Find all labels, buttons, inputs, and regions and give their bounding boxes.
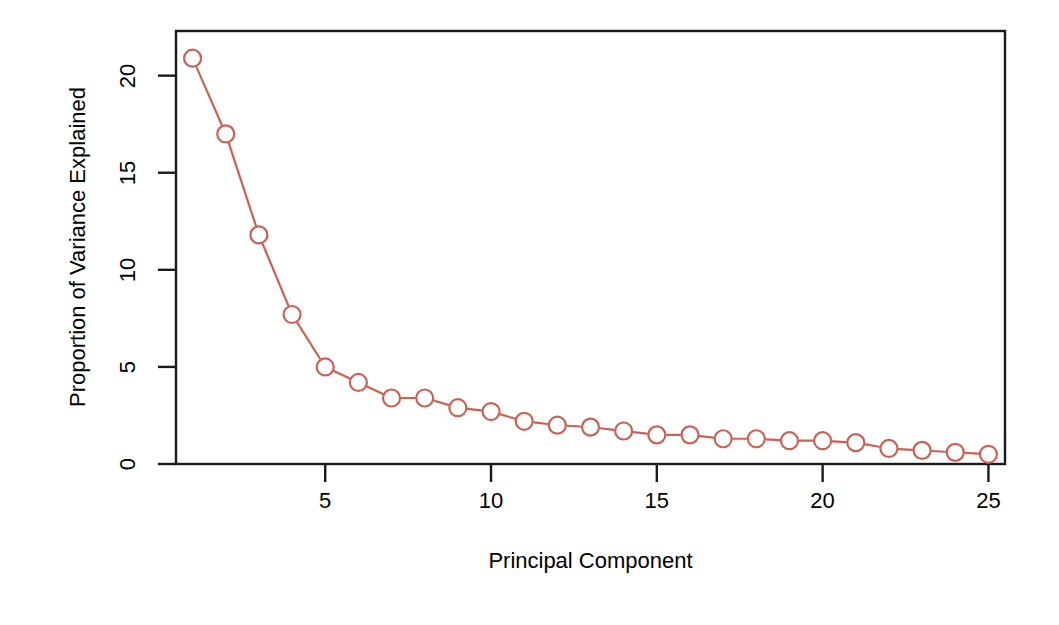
scree-plot-figure: Proportion of Variance Explained Princip… <box>0 0 1059 625</box>
x-tick-label: 10 <box>479 488 503 514</box>
x-tick-label: 20 <box>810 488 834 514</box>
plot-canvas <box>0 0 1059 625</box>
x-axis-ticks <box>325 464 988 482</box>
y-tick-label: 20 <box>115 54 141 98</box>
variance-line <box>197 67 979 453</box>
y-axis-ticks <box>158 76 176 464</box>
axis-frame <box>176 31 1005 464</box>
y-tick-label: 10 <box>115 248 141 292</box>
variance-markers <box>184 50 997 463</box>
y-tick-label: 5 <box>115 345 141 389</box>
x-tick-label: 15 <box>645 488 669 514</box>
y-tick-label: 15 <box>115 151 141 195</box>
x-tick-label: 25 <box>976 488 1000 514</box>
y-tick-label: 0 <box>115 442 141 486</box>
x-tick-label: 5 <box>319 488 331 514</box>
